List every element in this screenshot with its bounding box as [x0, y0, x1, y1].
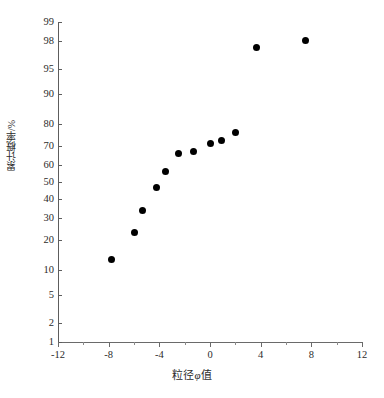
data-point — [253, 44, 260, 51]
data-point — [302, 37, 309, 44]
x-tick-label: -8 — [104, 350, 113, 361]
x-tick-mark — [159, 342, 160, 347]
y-tick-label: 40 — [44, 194, 55, 205]
y-tick-mark — [58, 240, 62, 241]
data-point — [108, 256, 115, 263]
x-tick-mark — [185, 342, 186, 345]
y-tick-mark — [58, 41, 62, 42]
y-tick-label: 5 — [49, 290, 54, 301]
y-axis-label: 累计概率/% — [6, 120, 20, 171]
y-tick-mark — [58, 146, 62, 147]
data-point — [153, 184, 160, 191]
x-tick-mark — [235, 342, 236, 345]
data-point — [139, 207, 146, 214]
data-point — [218, 137, 225, 144]
y-tick-mark — [58, 165, 62, 166]
data-point — [131, 229, 138, 236]
y-tick-label: 95 — [44, 64, 55, 75]
x-axis-label-prefix: 粒径 — [172, 369, 194, 381]
data-point — [232, 129, 239, 136]
y-tick-mark — [58, 218, 62, 219]
y-tick-label: 20 — [44, 235, 55, 246]
y-tick-label: 70 — [44, 141, 55, 152]
y-tick-label: 90 — [44, 89, 55, 100]
y-tick-label: 2 — [49, 318, 54, 329]
y-tick-mark — [58, 323, 62, 324]
x-axis-label: 粒径φ值 — [0, 366, 384, 382]
y-tick-label: 60 — [44, 159, 55, 170]
plot-area: 125102030405060708090959899 -12-8-404812 — [58, 22, 362, 342]
x-tick-label: 12 — [357, 350, 368, 361]
y-tick-mark — [58, 199, 62, 200]
x-tick-mark — [337, 342, 338, 345]
y-tick-label: 30 — [44, 213, 55, 224]
x-tick-label: -4 — [155, 350, 164, 361]
y-tick-label: 1 — [49, 337, 54, 348]
y-tick-label: 50 — [44, 177, 55, 188]
y-tick-mark — [58, 94, 62, 95]
x-tick-mark — [109, 342, 110, 347]
x-tick-mark — [261, 342, 262, 347]
figure-probability-plot: 125102030405060708090959899 -12-8-404812… — [0, 0, 384, 398]
x-tick-mark — [210, 342, 211, 347]
y-tick-label: 10 — [44, 265, 55, 276]
x-tick-label: 4 — [258, 350, 263, 361]
data-point — [175, 150, 182, 157]
data-point — [190, 148, 197, 155]
y-tick-mark — [58, 22, 62, 23]
x-tick-mark — [83, 342, 84, 345]
y-tick-mark — [58, 295, 62, 296]
y-tick-mark — [58, 182, 62, 183]
y-tick-label: 80 — [44, 119, 55, 130]
data-point — [162, 168, 169, 175]
y-tick-label: 98 — [44, 35, 55, 46]
x-tick-label: 8 — [309, 350, 314, 361]
x-tick-mark — [362, 342, 363, 347]
x-axis-label-suffix: 值 — [201, 369, 212, 381]
y-tick-mark — [58, 270, 62, 271]
x-tick-mark — [286, 342, 287, 345]
y-tick-label: 99 — [44, 17, 55, 28]
x-tick-label: -12 — [51, 350, 65, 361]
y-tick-mark — [58, 124, 62, 125]
x-tick-mark — [311, 342, 312, 347]
x-tick-mark — [134, 342, 135, 345]
x-tick-mark — [58, 342, 59, 347]
x-tick-label: 0 — [207, 350, 212, 361]
data-point — [207, 140, 214, 147]
y-tick-mark — [58, 69, 62, 70]
